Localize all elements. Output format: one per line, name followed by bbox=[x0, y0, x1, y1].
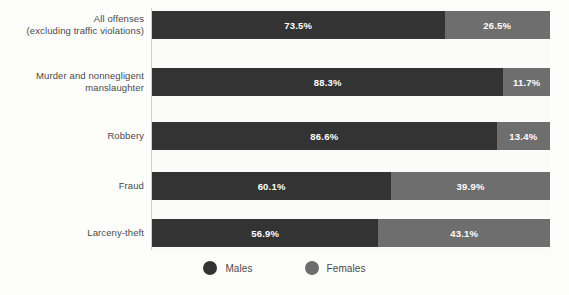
bar-segment-males[interactable]: 56.9% bbox=[152, 219, 378, 247]
bar-value-label: 56.9% bbox=[251, 228, 279, 239]
chart-row: Fraud60.1%39.9% bbox=[0, 172, 569, 200]
category-label-line: All offenses bbox=[0, 13, 144, 26]
bar-segment-males[interactable]: 86.6% bbox=[152, 122, 497, 150]
category-label: Fraud bbox=[0, 180, 144, 193]
stacked-bar[interactable]: 60.1%39.9% bbox=[152, 172, 550, 200]
category-label: Robbery bbox=[0, 130, 144, 143]
legend-item-females[interactable]: Females bbox=[305, 261, 366, 275]
bar-value-label: 86.6% bbox=[310, 131, 338, 142]
stacked-bar[interactable]: 56.9%43.1% bbox=[152, 219, 550, 247]
bar-value-label: 26.5% bbox=[483, 20, 511, 31]
stacked-bar[interactable]: 86.6%13.4% bbox=[152, 122, 550, 150]
category-label-line: manslaughter bbox=[0, 82, 144, 95]
chart-legend: Males Females bbox=[0, 261, 569, 275]
category-label-line: Larceny-theft bbox=[0, 227, 144, 240]
stacked-bar-chart: All offenses(excluding traffic violation… bbox=[0, 0, 569, 295]
bar-value-label: 60.1% bbox=[258, 181, 286, 192]
chart-row: All offenses(excluding traffic violation… bbox=[0, 11, 569, 39]
category-label-line: Robbery bbox=[0, 130, 144, 143]
bar-segment-females[interactable]: 11.7% bbox=[503, 68, 550, 96]
bar-value-label: 11.7% bbox=[513, 77, 540, 88]
legend-label-males: Males bbox=[225, 263, 252, 274]
bar-value-label: 43.1% bbox=[450, 228, 478, 239]
bar-segment-males[interactable]: 60.1% bbox=[152, 172, 391, 200]
bar-segment-females[interactable]: 43.1% bbox=[378, 219, 550, 247]
category-label: Larceny-theft bbox=[0, 227, 144, 240]
category-label-line: Murder and nonnegligent bbox=[0, 70, 144, 83]
bar-value-label: 88.3% bbox=[314, 77, 342, 88]
bar-value-label: 13.4% bbox=[509, 131, 537, 142]
circle-swatch-icon bbox=[305, 261, 319, 275]
stacked-bar[interactable]: 88.3%11.7% bbox=[152, 68, 550, 96]
chart-row: Murder and nonnegligentmanslaughter88.3%… bbox=[0, 68, 569, 96]
bar-value-label: 39.9% bbox=[457, 181, 485, 192]
stacked-bar[interactable]: 73.5%26.5% bbox=[152, 11, 550, 39]
bar-segment-females[interactable]: 39.9% bbox=[391, 172, 550, 200]
category-label: Murder and nonnegligentmanslaughter bbox=[0, 70, 144, 95]
legend-item-males[interactable]: Males bbox=[203, 261, 252, 275]
chart-row: Larceny-theft56.9%43.1% bbox=[0, 219, 569, 247]
category-label-line: (excluding traffic violations) bbox=[0, 25, 144, 38]
bar-segment-females[interactable]: 26.5% bbox=[445, 11, 550, 39]
bar-segment-males[interactable]: 73.5% bbox=[152, 11, 445, 39]
bar-segment-females[interactable]: 13.4% bbox=[497, 122, 550, 150]
category-label: All offenses(excluding traffic violation… bbox=[0, 13, 144, 38]
legend-label-females: Females bbox=[327, 263, 366, 274]
category-label-line: Fraud bbox=[0, 180, 144, 193]
scan-edge-artifact bbox=[0, 287, 569, 295]
chart-row: Robbery86.6%13.4% bbox=[0, 122, 569, 150]
circle-swatch-icon bbox=[203, 261, 217, 275]
bar-segment-males[interactable]: 88.3% bbox=[152, 68, 503, 96]
bar-value-label: 73.5% bbox=[284, 20, 312, 31]
